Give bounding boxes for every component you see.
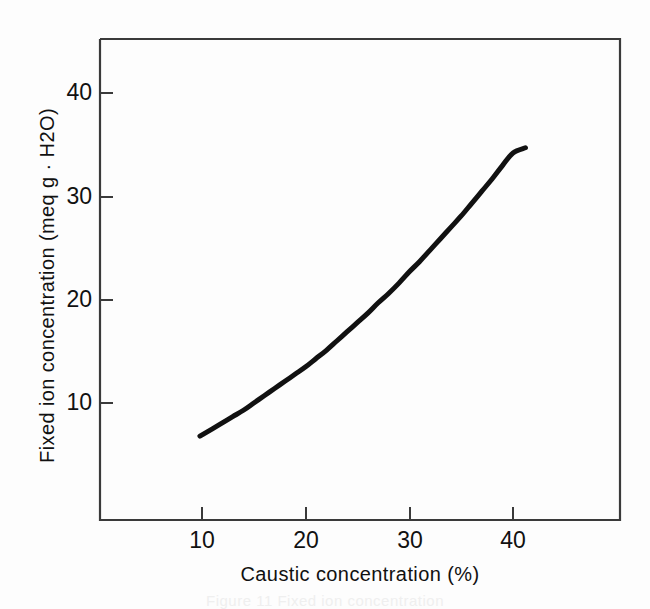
x-tick-label-30-wrap: 30: [380, 527, 440, 553]
figure-panel: 40 30 20 10 10 20 30 40 Fixed ion concen…: [0, 0, 650, 609]
line-chart-plot: [0, 0, 650, 609]
data-series-curve: [200, 148, 526, 436]
x-tick-label-20: 20: [276, 527, 336, 553]
x-tick-label-40: 40: [483, 527, 543, 553]
x-axis-ticks: [202, 507, 513, 520]
y-axis-ticks: [100, 93, 113, 403]
axes-frame-rect: [100, 39, 620, 520]
plot-frame: [100, 39, 620, 520]
y-axis-title: Fixed ion concentration (meq g · H2O): [36, 51, 59, 521]
x-axis-title: Caustic concentration (%): [100, 563, 620, 586]
x-tick-label-40-wrap: 40: [483, 527, 543, 553]
x-tick-label-10-wrap: 10: [172, 527, 232, 553]
figure-caption: Figure 11 Fixed ion concentration: [0, 592, 650, 609]
x-tick-label-20-wrap: 20: [276, 527, 336, 553]
x-tick-label-30: 30: [380, 527, 440, 553]
x-tick-label-10: 10: [172, 527, 232, 553]
